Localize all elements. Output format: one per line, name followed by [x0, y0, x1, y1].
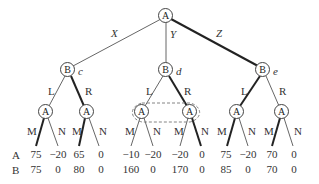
move-label-l: L [48, 86, 55, 97]
move-label-m: M [217, 126, 227, 137]
payoff-b: 0 [86, 164, 116, 175]
b-node-e: B [255, 62, 270, 77]
move-label-m: M [264, 126, 274, 137]
move-label-n: N [99, 126, 107, 137]
payoff-row-label-a: A [12, 149, 20, 161]
a-node: A [274, 104, 289, 119]
move-label-z: Z [216, 28, 222, 39]
a-node: A [182, 104, 197, 119]
payoff-a: 0 [279, 149, 309, 160]
a-node: A [229, 104, 244, 119]
payoff-b: 0 [279, 164, 309, 175]
payoff-a: −20 [138, 149, 168, 160]
b-node-d: B [158, 62, 173, 77]
a-node: A [79, 104, 94, 119]
move-label-r: R [184, 86, 191, 97]
a-node: A [134, 104, 149, 119]
move-label-l: L [146, 86, 153, 97]
b-node-e-label: e [273, 66, 278, 77]
move-label-m: M [27, 126, 37, 137]
a-node: A [38, 104, 53, 119]
move-label-x: X [111, 28, 118, 39]
payoff-a: 0 [86, 149, 116, 160]
move-label-m: M [174, 126, 184, 137]
move-label-n: N [58, 126, 66, 137]
b-node-c-label: c [78, 66, 83, 77]
payoff-b: 0 [138, 164, 168, 175]
move-label-m: M [125, 126, 135, 137]
move-label-l: L [241, 86, 248, 97]
move-label-r: R [85, 86, 92, 97]
b-node-c: B [60, 62, 75, 77]
payoff-row-label-b: B [12, 164, 19, 176]
move-label-n: N [201, 126, 209, 137]
move-label-n: N [248, 126, 256, 137]
b-node-d-label: d [176, 66, 182, 77]
move-label-n: N [153, 126, 161, 137]
move-label-r: R [279, 86, 286, 97]
move-label-m: M [72, 126, 82, 137]
move-label-y: Y [170, 29, 176, 40]
move-label-n: N [294, 126, 302, 137]
root-node: A [158, 8, 173, 23]
